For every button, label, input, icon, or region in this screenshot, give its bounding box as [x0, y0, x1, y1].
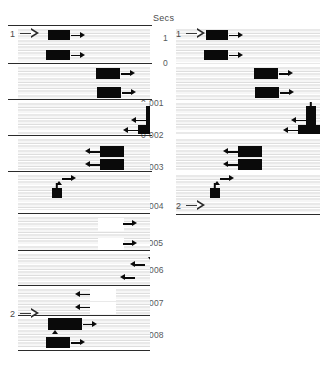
- band-right-1-trace-0-arrow-right: [229, 32, 244, 39]
- band-left-1-trace-1-block: [46, 50, 70, 60]
- band-left-9-trace-1-tick-up: [52, 330, 58, 334]
- band-right-3-trace-1-arrow-left: [291, 117, 306, 124]
- band-left-5-trace-0-arrow-right: [62, 175, 77, 182]
- band-right-4-trace-1-arrow-left: [223, 161, 238, 168]
- band-left-3-trace-2-arrow-left: [123, 127, 138, 134]
- band-left-3-trace-1-arrow-left: [131, 117, 146, 124]
- band-right-4: [176, 138, 320, 170]
- band-right-5-rule-bottom: [176, 214, 320, 215]
- band-left-7-trace-2-arrow-left: [120, 274, 135, 281]
- band-right-1-trace-1-arrow-right: [229, 52, 244, 59]
- band-left-9-trace-2-block: [46, 337, 70, 348]
- band-right-3-trace-2-arrow-left: [283, 127, 298, 134]
- band-left-4-trace-1-arrow-left: [85, 161, 100, 168]
- band-left-1-trace-0-block: [48, 30, 70, 40]
- band-right-2-trace-0-arrow-right: [279, 70, 294, 77]
- band-right-4-rule-top: [8, 135, 152, 136]
- band-left-8-trace-0-block: [90, 289, 116, 301]
- band-left-3-trace-1-block: [146, 115, 150, 125]
- band-left-3-trace-2-block: [138, 125, 150, 134]
- event-number-2-3: 2: [176, 201, 181, 211]
- band-left-6: [18, 216, 150, 250]
- band-left-6-trace-0-block: [98, 218, 124, 231]
- band-left-9-trace-0-block: [48, 318, 82, 330]
- band-right-2-rule-top: [8, 63, 152, 64]
- band-right-5-trace-2-flask-marker: [210, 183, 220, 198]
- band-left-5-trace-2-flask-marker: [52, 183, 62, 198]
- band-right-2-trace-0-block: [254, 68, 278, 79]
- band-right-5-rule-top: [8, 171, 152, 172]
- band-left-7-trace-1-arrow-left: [130, 261, 145, 268]
- band-right-2-trace-1-block: [255, 87, 279, 98]
- event-pointer-1-0: [20, 28, 42, 39]
- band-left-8-trace-0-arrow-left: [75, 291, 90, 298]
- band-left-9-trace-2-arrow-right: [71, 339, 86, 346]
- band-left-4-trace-1-block: [100, 159, 124, 170]
- band-left-3-trace-0-flask-marker: [146, 102, 150, 115]
- band-left-6-trace-0-arrow-right: [123, 220, 138, 227]
- band-left-6-trace-1-block: [98, 238, 124, 250]
- band-right-4-trace-0-block: [238, 146, 262, 157]
- band-left-4-trace-0-block: [100, 146, 124, 157]
- band-left-7-trace-0-tick-down: [148, 257, 150, 261]
- band-right-4-trace-1-block: [238, 159, 262, 170]
- band-left-3: [18, 102, 150, 134]
- band-right-1-trace-0-block: [206, 30, 228, 40]
- band-right-1-rule-top: [8, 25, 152, 26]
- event-pointer-2-2: [20, 308, 42, 319]
- band-right-3-rule-top: [8, 99, 152, 100]
- event-number-1-0: 1: [10, 29, 15, 39]
- band-right-1-trace-1-block: [204, 50, 228, 60]
- band-left-7: [18, 253, 150, 285]
- band-right-3-trace-2-block: [298, 125, 320, 134]
- band-left-9-trace-0-arrow-right: [83, 321, 98, 328]
- band-left-9: [18, 318, 150, 348]
- band-left-8-trace-1-arrow-left: [75, 304, 90, 311]
- band-left-2-trace-0-block: [96, 68, 120, 79]
- band-right-3-trace-1-block: [306, 115, 316, 125]
- event-number-1-1: 1: [176, 29, 181, 39]
- band-left-6-trace-1-arrow-right: [123, 240, 138, 247]
- band-right-4-trace-0-arrow-left: [223, 148, 238, 155]
- band-left-8-trace-1-block: [90, 302, 116, 314]
- event-pointer-1-1: [186, 28, 208, 39]
- event-pointer-2-3: [186, 200, 208, 211]
- band-left-5: [18, 174, 150, 210]
- band-right-5-trace-0-arrow-right: [220, 175, 235, 182]
- band-right-2-trace-1-arrow-right: [280, 89, 295, 96]
- band-left-2: [18, 66, 150, 100]
- band-left-2-trace-1-arrow-right: [122, 89, 137, 96]
- event-number-2-2: 2: [10, 309, 15, 319]
- band-left-7-rule-top: [18, 250, 150, 251]
- band-right-2: [176, 66, 320, 100]
- band-left-2-trace-0-arrow-right: [121, 70, 136, 77]
- band-right-3-trace-0-flask-marker: [306, 102, 316, 115]
- band-left-1-trace-1-arrow-right: [71, 52, 86, 59]
- band-left-1-trace-0-arrow-right: [71, 32, 86, 39]
- band-left-6-rule-top: [18, 213, 150, 214]
- band-left-4: [18, 138, 150, 170]
- band-left-4-trace-0-arrow-left: [85, 148, 100, 155]
- band-left-8-rule-top: [18, 285, 150, 286]
- band-left-9-rule-bottom: [18, 350, 150, 351]
- band-left-2-trace-1-block: [97, 87, 121, 98]
- figure-canvas: Secs 100·0010·0020·0030·0040.0050·0060·0…: [0, 0, 324, 369]
- band-right-3: [176, 102, 320, 134]
